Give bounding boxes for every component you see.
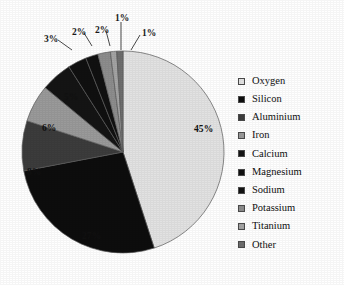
legend-swatch-icon-aluminium — [238, 114, 245, 121]
pie-svg — [0, 0, 230, 285]
pie-chart-area: 45%27%8%6%5% 3%2%2%1%1% — [0, 0, 230, 285]
legend-item-titanium[interactable]: Titanium — [238, 218, 344, 236]
leader-line-magnesium — [58, 40, 72, 50]
slice-callout-2: 2% — [95, 26, 109, 36]
legend-item-silicon[interactable]: Silicon — [238, 90, 344, 108]
legend-item-iron[interactable]: Iron — [238, 127, 344, 145]
slice-callout-3: 1% — [115, 14, 129, 24]
legend-label: Magnesium — [252, 167, 302, 178]
legend-swatch-icon-sodium — [238, 187, 245, 194]
legend-label: Oxygen — [252, 76, 285, 87]
legend-label: Other — [252, 240, 276, 251]
legend-item-oxygen[interactable]: Oxygen — [238, 72, 344, 90]
legend-swatch-icon-calcium — [238, 150, 245, 157]
pie-chart-figure: 45%27%8%6%5% 3%2%2%1%1% OxygenSiliconAlu… — [0, 0, 344, 285]
legend-swatch-icon-titanium — [238, 223, 245, 230]
legend-item-potassium[interactable]: Potassium — [238, 199, 344, 217]
legend-swatch-icon-oxygen — [238, 78, 245, 85]
slice-label-8: 8% — [27, 168, 41, 178]
slice-label-5: 5% — [64, 93, 78, 103]
legend-label: Sodium — [252, 185, 285, 196]
legend-label: Calcium — [252, 149, 288, 160]
legend-swatch-icon-iron — [238, 132, 245, 139]
legend-item-aluminium[interactable]: Aluminium — [238, 108, 344, 126]
legend-item-sodium[interactable]: Sodium — [238, 181, 344, 199]
legend-label: Potassium — [252, 203, 295, 214]
legend-label: Titanium — [252, 221, 290, 232]
legend-item-calcium[interactable]: Calcium — [238, 145, 344, 163]
legend-swatch-icon-magnesium — [238, 169, 245, 176]
legend-item-magnesium[interactable]: Magnesium — [238, 163, 344, 181]
slice-label-45: 45% — [194, 125, 213, 135]
slice-label-27: 27% — [82, 232, 101, 242]
slice-callout-0: 3% — [44, 35, 58, 45]
pie-slices-group — [22, 51, 224, 253]
slice-callout-4: 1% — [142, 29, 156, 39]
chart-legend: OxygenSiliconAluminiumIronCalciumMagnesi… — [238, 72, 344, 254]
slice-callout-1: 2% — [72, 28, 86, 38]
legend-swatch-icon-silicon — [238, 96, 245, 103]
leader-line-other — [131, 35, 140, 50]
legend-label: Iron — [252, 130, 270, 141]
legend-label: Aluminium — [252, 112, 300, 123]
legend-swatch-icon-potassium — [238, 205, 245, 212]
legend-label: Silicon — [252, 94, 282, 105]
legend-item-other[interactable]: Other — [238, 236, 344, 254]
slice-label-6: 6% — [42, 124, 56, 134]
legend-swatch-icon-other — [238, 241, 245, 248]
